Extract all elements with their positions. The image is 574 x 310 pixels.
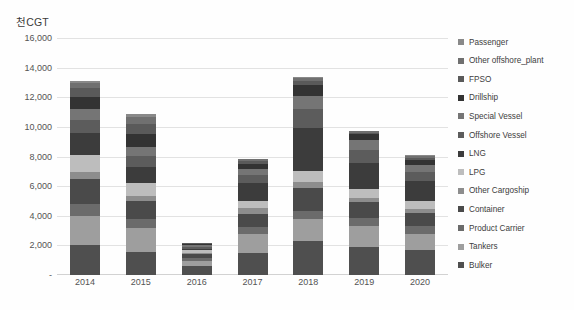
bar-segment[interactable]	[349, 218, 379, 226]
bar-segment[interactable]	[293, 171, 323, 183]
chart-legend: PassengerOther offshore_plantFPSODrillsh…	[458, 36, 570, 282]
bar-segment[interactable]	[126, 219, 156, 228]
bar-column[interactable]	[238, 159, 268, 275]
bar-segment[interactable]	[405, 226, 435, 233]
legend-item[interactable]: Container	[458, 203, 505, 215]
x-axis-tick-label: 2020	[392, 277, 448, 287]
bar-segment[interactable]	[405, 250, 435, 275]
legend-swatch-icon	[458, 95, 464, 101]
legend-swatch-icon	[458, 169, 464, 175]
bar-segment[interactable]	[238, 175, 268, 183]
legend-item[interactable]: FPSO	[458, 73, 491, 85]
bar-segment[interactable]	[126, 201, 156, 220]
plot-area	[57, 38, 448, 275]
legend-item[interactable]: LPG	[458, 166, 485, 178]
legend-label: Tankers	[469, 242, 498, 251]
bar-segment[interactable]	[70, 88, 100, 96]
legend-swatch-icon	[458, 206, 464, 212]
bar-segment[interactable]	[126, 117, 156, 125]
bar-segment[interactable]	[126, 147, 156, 156]
bar-segment[interactable]	[126, 228, 156, 252]
bar-segment[interactable]	[293, 188, 323, 210]
legend-label: Bulker	[469, 261, 492, 270]
bar-segment[interactable]	[70, 97, 100, 110]
legend-item[interactable]: LNG	[458, 148, 486, 160]
bar-segment[interactable]	[70, 245, 100, 275]
bar-segment[interactable]	[238, 183, 268, 201]
bar-column[interactable]	[70, 81, 100, 275]
bar-segment[interactable]	[405, 234, 435, 250]
bar-segment[interactable]	[349, 247, 379, 275]
bar-segment[interactable]	[349, 140, 379, 150]
bar-segment[interactable]	[405, 165, 435, 172]
bar-segment[interactable]	[405, 201, 435, 209]
legend-item[interactable]: Offshore Vessel	[458, 129, 527, 141]
legend-item[interactable]: Other offshore_plant	[458, 55, 544, 67]
bar-segment[interactable]	[70, 155, 100, 172]
bar-segment[interactable]	[349, 202, 379, 218]
bar-segment[interactable]	[293, 219, 323, 240]
bar-segment[interactable]	[238, 214, 268, 227]
bar-column[interactable]	[349, 131, 379, 275]
bar-segment[interactable]	[70, 109, 100, 119]
bar-segment[interactable]	[126, 252, 156, 275]
bar-segment[interactable]	[70, 216, 100, 245]
bar-segment[interactable]	[70, 120, 100, 133]
bar-segment[interactable]	[293, 96, 323, 109]
x-axis-tick-label: 2014	[57, 277, 113, 287]
y-axis-tick-label: 4,000	[6, 211, 52, 221]
legend-label: Other offshore_plant	[469, 56, 544, 65]
stacked-bar-chart: 천CGT 16,00014,00012,00010,0008,0006,0004…	[0, 0, 574, 310]
x-axis-tick-labels: 2014201520162017201820192020	[57, 277, 448, 297]
bar-segment[interactable]	[293, 128, 323, 171]
bar-segment[interactable]	[405, 213, 435, 226]
bar-segment[interactable]	[405, 181, 435, 201]
legend-label: LPG	[469, 168, 485, 177]
bar-column[interactable]	[126, 114, 156, 275]
gridline	[57, 127, 448, 128]
legend-label: FPSO	[469, 75, 491, 84]
bar-segment[interactable]	[126, 183, 156, 196]
bar-segment[interactable]	[405, 172, 435, 181]
legend-label: Special Vessel	[469, 112, 522, 121]
bar-segment[interactable]	[126, 167, 156, 183]
legend-item[interactable]: Other Cargoship	[458, 185, 529, 197]
legend-item[interactable]: Special Vessel	[458, 110, 522, 122]
legend-swatch-icon	[458, 151, 464, 157]
legend-label: Container	[469, 205, 505, 214]
bar-segment[interactable]	[126, 124, 156, 133]
bar-column[interactable]	[405, 155, 435, 275]
bar-segment[interactable]	[349, 226, 379, 247]
bar-segment[interactable]	[293, 211, 323, 220]
y-axis-tick-label: 2,000	[6, 240, 52, 250]
legend-item[interactable]: Passenger	[458, 36, 508, 48]
bar-column[interactable]	[182, 243, 212, 275]
bar-column[interactable]	[293, 77, 323, 275]
legend-label: LNG	[469, 149, 486, 158]
y-axis-tick-label: 14,000	[6, 63, 52, 73]
bar-segment[interactable]	[70, 133, 100, 155]
bar-segment[interactable]	[293, 109, 323, 128]
bar-segment[interactable]	[70, 204, 100, 216]
legend-swatch-icon	[458, 113, 464, 119]
y-axis-tick-label: 16,000	[6, 33, 52, 43]
bar-segment[interactable]	[70, 172, 100, 179]
bar-segment[interactable]	[126, 156, 156, 167]
bar-segment[interactable]	[238, 234, 268, 253]
legend-item[interactable]: Tankers	[458, 241, 498, 253]
bar-segment[interactable]	[238, 227, 268, 234]
bar-segment[interactable]	[293, 241, 323, 275]
legend-item[interactable]: Drillship	[458, 92, 498, 104]
x-axis-tick-label: 2015	[113, 277, 169, 287]
bar-segment[interactable]	[238, 201, 268, 208]
bar-segment[interactable]	[126, 134, 156, 147]
bar-segment[interactable]	[349, 150, 379, 163]
bar-segment[interactable]	[349, 189, 379, 198]
bar-segment[interactable]	[70, 179, 100, 204]
bar-segment[interactable]	[238, 253, 268, 275]
bar-segment[interactable]	[293, 85, 323, 95]
bar-segment[interactable]	[182, 266, 212, 275]
legend-item[interactable]: Product Carrier	[458, 222, 525, 234]
bar-segment[interactable]	[349, 163, 379, 189]
legend-item[interactable]: Bulker	[458, 259, 492, 271]
